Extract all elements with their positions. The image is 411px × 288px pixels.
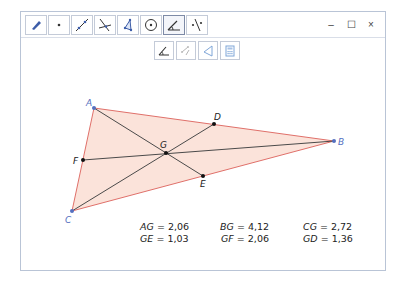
point-F[interactable] [81, 158, 85, 162]
label-C: C [65, 215, 72, 225]
point-D[interactable] [212, 122, 216, 126]
label-D: D [214, 112, 221, 122]
triangle-ABC[interactable] [72, 108, 334, 211]
label-F: F [73, 156, 79, 166]
geometry-canvas: A B C D E F G [0, 0, 411, 288]
measurement-BG[interactable]: BG = 4,12 [220, 221, 269, 232]
label-B: B [338, 137, 344, 147]
measurement-CG[interactable]: CG = 2,72 [303, 221, 352, 232]
measurement-GF[interactable]: GF = 2,06 [221, 233, 269, 244]
label-A: A [85, 98, 92, 108]
label-G: G [160, 140, 167, 150]
construction-drawing[interactable]: A B C D E F G [0, 0, 411, 288]
point-E[interactable] [201, 174, 205, 178]
measurement-GD[interactable]: GD = 1,36 [303, 233, 353, 244]
point-A[interactable] [92, 106, 96, 110]
label-E: E [200, 179, 206, 189]
point-G[interactable] [164, 151, 168, 155]
point-B[interactable] [332, 139, 336, 143]
point-C[interactable] [70, 209, 74, 213]
measurement-GE[interactable]: GE = 1,03 [140, 233, 189, 244]
measurement-AG[interactable]: AG = 2,06 [140, 221, 189, 232]
